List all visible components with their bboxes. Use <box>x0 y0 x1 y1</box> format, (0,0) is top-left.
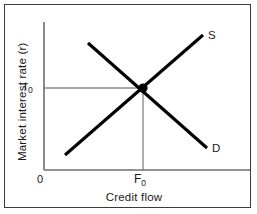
plot-area: Market interest rate (r) Credit flow 0 r… <box>0 0 257 214</box>
x-equilibrium-tick-label: F0 <box>134 173 146 187</box>
origin-label: 0 <box>37 174 43 185</box>
y-equilibrium-tick-label: r0 <box>24 80 33 94</box>
y-axis-label: Market interest rate (r) <box>17 17 29 187</box>
y-equilibrium-tick-subscript: 0 <box>28 85 33 95</box>
figure-canvas: Market interest rate (r) Credit flow 0 r… <box>0 0 257 214</box>
equilibrium-point-marker <box>138 83 147 92</box>
supply-curve-label: S <box>208 30 216 42</box>
demand-curve <box>88 43 207 148</box>
demand-curve-label: D <box>212 143 220 155</box>
x-equilibrium-tick-subscript: 0 <box>141 178 146 188</box>
x-axis-label: Credit flow <box>44 192 224 204</box>
supply-curve <box>65 35 203 155</box>
